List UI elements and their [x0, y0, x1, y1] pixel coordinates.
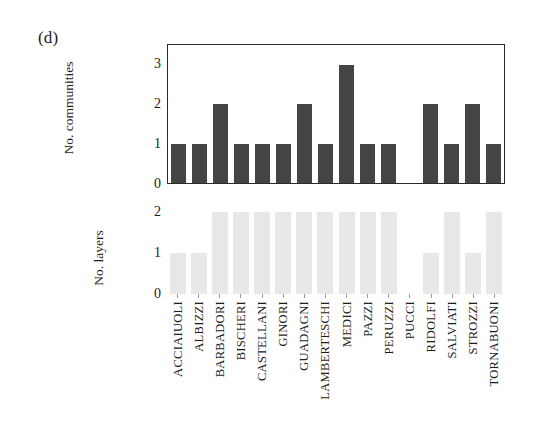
bar-column	[420, 45, 441, 183]
layers-bar	[212, 212, 228, 294]
communities-bar	[381, 144, 397, 183]
x-category-label-text: PAZZI	[360, 301, 375, 337]
layers-bar	[233, 212, 249, 294]
x-category-label-text: RIDOLFI	[424, 301, 439, 352]
layers-bar	[296, 212, 312, 294]
communities-bar	[360, 144, 376, 183]
layers-bar	[465, 253, 481, 294]
bar-column	[167, 212, 188, 294]
bar-column	[442, 212, 463, 294]
x-category-label: BARBADORI	[209, 299, 230, 439]
y-tick-label: 2	[154, 205, 161, 219]
chart-no-communities	[167, 44, 505, 184]
communities-bar	[192, 144, 208, 183]
communities-bar	[234, 144, 250, 183]
layers-bar	[254, 212, 270, 294]
communities-bar	[213, 104, 229, 183]
bar-column	[315, 212, 336, 294]
x-category-label-text: BARBADORI	[212, 301, 227, 377]
bar-column	[399, 45, 420, 183]
bar-column	[294, 45, 315, 183]
communities-bar	[171, 144, 187, 183]
figure-panel-d: (d) No. communities 0123 No. layers 012 …	[0, 0, 545, 448]
bar-column	[357, 45, 378, 183]
x-category-label: TORNABUONI	[484, 299, 505, 439]
bar-column	[273, 45, 294, 183]
x-category-label: RIDOLFI	[421, 299, 442, 439]
communities-bar	[339, 65, 355, 183]
x-category-label: BISCHERI	[230, 299, 251, 439]
x-category-label-text: PUCCI	[402, 301, 417, 339]
bar-column	[463, 212, 484, 294]
x-category-label-text: STROZZI	[466, 301, 481, 355]
bar-column	[378, 45, 399, 183]
layers-bar	[339, 212, 355, 294]
communities-bar	[255, 144, 271, 183]
bar-column	[462, 45, 483, 183]
x-category-label: LAMBERTESCHI	[315, 299, 336, 439]
panel-label: (d)	[38, 28, 58, 48]
layers-bar	[381, 212, 397, 294]
bar-column	[421, 212, 442, 294]
communities-bar	[318, 144, 334, 183]
bar-column	[336, 45, 357, 183]
x-category-label-text: GUADAGNI	[297, 301, 312, 371]
bar-column	[336, 212, 357, 294]
x-category-label-text: TORNABUONI	[487, 301, 502, 386]
bar-column	[483, 45, 504, 183]
x-category-label: ALBIZZI	[188, 299, 209, 439]
x-category-label: PERUZZI	[378, 299, 399, 439]
x-axis-category-labels: ACCIAIUOLIALBIZZIBARBADORIBISCHERICASTEL…	[167, 299, 505, 439]
communities-bar	[276, 144, 292, 183]
y-tick-label: 1	[154, 137, 161, 151]
x-category-label-text: ALBIZZI	[191, 301, 206, 352]
bar-series-communities	[168, 45, 504, 183]
x-category-label-text: SALVIATI	[445, 301, 460, 359]
y-axis-ticks-communities: 0123	[129, 44, 161, 184]
communities-bar	[444, 144, 460, 183]
x-category-label: STROZZI	[463, 299, 484, 439]
x-category-label: SALVIATI	[442, 299, 463, 439]
x-category-label-text: MEDICI	[339, 301, 354, 347]
y-axis-ticks-layers: 012	[129, 212, 161, 294]
y-tick-label: 0	[154, 287, 161, 301]
layers-bar	[486, 212, 502, 294]
y-tick-label: 2	[154, 97, 161, 111]
x-category-label: PUCCI	[399, 299, 420, 439]
x-category-label-text: ACCIAIUOLI	[170, 301, 185, 377]
communities-bar	[486, 144, 502, 183]
layers-bar	[444, 212, 460, 294]
x-category-label: CASTELLANI	[252, 299, 273, 439]
x-category-label-text: CASTELLANI	[255, 301, 270, 381]
x-category-label-text: GINORI	[276, 301, 291, 347]
y-axis-title-layers: No. layers	[91, 208, 107, 308]
x-category-label-text: BISCHERI	[233, 301, 248, 360]
x-category-label: ACCIAIUOLI	[167, 299, 188, 439]
bar-series-layers	[167, 212, 505, 294]
bar-column	[252, 45, 273, 183]
chart-no-layers	[167, 212, 505, 294]
bar-column	[357, 212, 378, 294]
layers-bar	[317, 212, 333, 294]
bar-column	[315, 45, 336, 183]
communities-bar	[465, 104, 481, 183]
x-category-label: GUADAGNI	[294, 299, 315, 439]
layers-bar	[170, 253, 186, 294]
x-category-label-text: PERUZZI	[381, 301, 396, 355]
bar-column	[189, 45, 210, 183]
x-category-label-text: LAMBERTESCHI	[318, 301, 333, 400]
communities-bar	[297, 104, 313, 183]
bar-column	[230, 212, 251, 294]
bar-column	[294, 212, 315, 294]
x-category-label: PAZZI	[357, 299, 378, 439]
bar-column	[273, 212, 294, 294]
bar-column	[484, 212, 505, 294]
layers-bar	[423, 253, 439, 294]
bar-column	[441, 45, 462, 183]
bar-column	[252, 212, 273, 294]
communities-bar	[423, 104, 439, 183]
layers-bar	[360, 212, 376, 294]
y-tick-label: 1	[154, 246, 161, 260]
y-axis-title-communities: No. communities	[61, 33, 77, 183]
x-category-label: GINORI	[273, 299, 294, 439]
